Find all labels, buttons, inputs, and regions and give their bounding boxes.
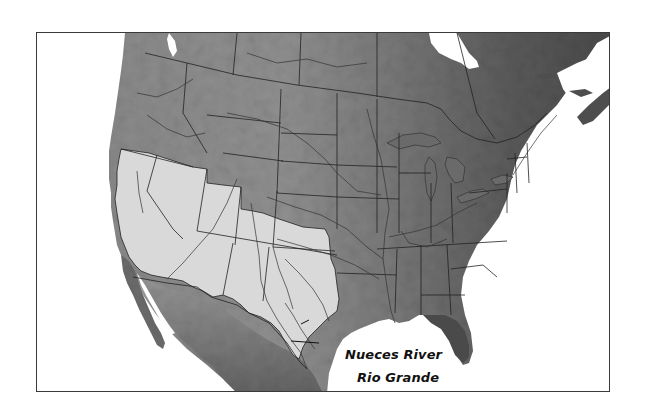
- label-rio-grande: Rio Grande: [357, 370, 439, 385]
- label-nueces-river: Nueces River: [345, 347, 442, 362]
- map-frame: Nueces River Rio Grande: [36, 32, 610, 392]
- relief-map: [37, 33, 610, 392]
